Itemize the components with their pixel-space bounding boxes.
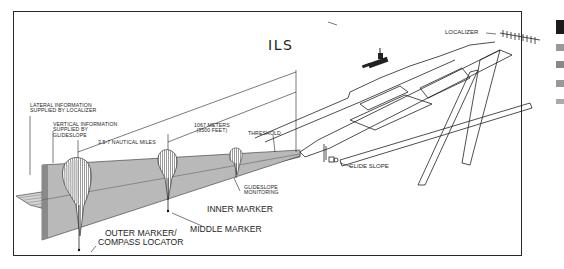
localizer-antenna-array	[500, 30, 540, 44]
glideslope-monitoring-line2: MONITORING	[244, 190, 279, 195]
localizer-label: LOCALIZER	[445, 29, 478, 35]
distance-nm-label: 3.5-7 NAUTICAL MILES	[98, 140, 156, 145]
ils-diagram: ILS LOCALIZER LATERAL INFORMATION SUPPLI…	[0, 0, 564, 269]
threshold-label: THRESHOLD	[248, 131, 281, 136]
lateral-info-label: LATERAL INFORMATION SUPPLIED BY LOCALIZE…	[30, 103, 96, 114]
terminal-building	[362, 48, 389, 68]
outer-marker-line2: COMPASS LOCATOR	[98, 238, 183, 247]
lateral-info-line2: SUPPLIED BY LOCALIZER	[30, 108, 96, 113]
outer-marker-label: OUTER MARKER/ COMPASS LOCATOR	[98, 229, 183, 247]
distance-m-label: 1067 METERS (3500 FEET)	[194, 123, 230, 134]
middle-marker-label: MIDDLE MARKER	[190, 225, 262, 234]
vertical-info-label: VERTICAL INFORMATION SUPPLIED BY GLIDESL…	[53, 122, 117, 138]
airport-runways	[255, 42, 532, 185]
glide-slope-antenna	[324, 144, 338, 162]
vertical-info-line3: GLIDESLOPE	[53, 133, 117, 138]
inner-marker-label: INNER MARKER	[207, 205, 273, 214]
glide-slope-label: GLIDE SLOPE	[349, 163, 389, 169]
glideslope-monitoring-label: GLIDESLOPE MONITORING	[244, 185, 279, 196]
diagram-title: ILS	[268, 38, 293, 53]
distance-m-line2: (3500 FEET)	[194, 128, 230, 133]
